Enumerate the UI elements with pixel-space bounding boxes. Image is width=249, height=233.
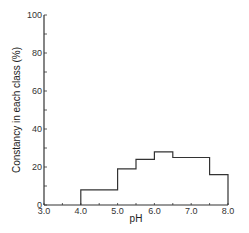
y-tick-label: 100 [27,10,42,20]
x-tick-label: 4.0 [75,206,88,216]
x-tick-label: 3.0 [38,206,51,216]
x-tick-label: 6.0 [148,206,161,216]
histogram-chart: 020406080100 3.04.05.06.07.08.0 pH Const… [0,0,249,233]
y-tick-label: 80 [32,48,42,58]
histogram-step-line [81,152,228,205]
axes [44,15,228,205]
y-axis-label: Constancy in each class (%) [11,47,22,173]
y-tick-label: 40 [32,124,42,134]
y-tick-label: 60 [32,86,42,96]
y-tick-label: 20 [32,162,42,172]
x-axis-label: pH [130,213,143,224]
x-tick-label: 5.0 [111,206,124,216]
x-tick-label: 7.0 [185,206,198,216]
x-tick-label: 8.0 [222,206,235,216]
